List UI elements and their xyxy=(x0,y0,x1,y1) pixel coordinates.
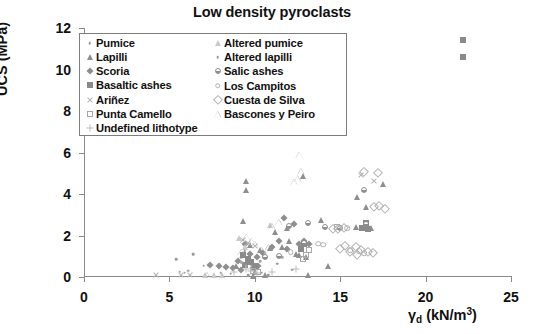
x-tick-label: 25 xyxy=(503,289,519,305)
chart-legend: PumiceLapilliScoriaBasaltic ashesAriñezP… xyxy=(79,33,347,136)
x-tick-label: 0 xyxy=(80,289,88,305)
y-tick-label: 0 xyxy=(63,269,71,285)
legend-item-label: Altered pumice xyxy=(224,37,303,49)
triangle-filled-marker-icon xyxy=(262,272,268,278)
x-tick-label: 5 xyxy=(165,289,173,305)
y-tick-label: 6 xyxy=(63,145,71,161)
legend-item-label: Bascones y Peiro xyxy=(224,108,315,120)
legend-item-cuesta-de-silva[interactable]: Cuesta de Silva xyxy=(211,93,345,107)
triangle-open-marker-icon xyxy=(203,271,211,278)
y-tick-label: 2 xyxy=(63,228,71,244)
diamond-filled-marker-icon xyxy=(86,68,93,75)
x-axis-unit-open: (kN/m xyxy=(422,307,466,323)
legend-item-basaltic-ashes[interactable]: Basaltic ashes xyxy=(83,78,211,92)
diamond-filled-marker-icon xyxy=(215,262,222,269)
y-tick: 6 xyxy=(79,153,85,154)
x-axis-label: γd (kN/m3) xyxy=(408,306,477,325)
triangle-open-marker-icon xyxy=(217,271,225,278)
legend-marker-triangle-filled-icon xyxy=(83,51,96,63)
triangle-filled-marker-icon xyxy=(286,238,292,244)
legend-item-label: Undefined lithotype xyxy=(96,122,198,134)
circle-half-marker-icon xyxy=(361,187,367,193)
legend-item-salic-ashes[interactable]: Salic ashes xyxy=(211,64,345,78)
legend-item-label: Cuesta de Silva xyxy=(224,94,304,106)
triangle-open-marker-icon xyxy=(214,111,222,118)
triangle-filled-marker-icon xyxy=(240,218,246,224)
legend-column-right: Altered pumiceAltered lapilliSalic ashes… xyxy=(211,36,345,135)
triangle-open-marker-icon xyxy=(290,178,298,185)
square-filled-marker-icon xyxy=(365,226,371,232)
circle-open-marker-icon xyxy=(215,83,221,89)
legend-column-left: PumiceLapilliScoriaBasaltic ashesAriñezP… xyxy=(83,36,211,135)
circle-half-marker-icon xyxy=(322,224,328,230)
y-tick: 4 xyxy=(79,194,85,195)
legend-item-label: Los Campitos xyxy=(224,80,296,92)
y-tick: 2 xyxy=(79,236,85,237)
legend-item-label: Basaltic ashes xyxy=(96,79,172,91)
triangle-filled-marker-icon xyxy=(363,204,369,210)
legend-marker-dot-icon xyxy=(83,37,96,49)
circle-half-marker-icon xyxy=(305,220,311,226)
x-marker-icon xyxy=(371,177,378,184)
square-filled-marker-icon xyxy=(87,82,93,88)
y-tick-label: 8 xyxy=(63,103,71,119)
legend-item-label: Salic ashes xyxy=(224,65,283,77)
square-open-marker-icon xyxy=(306,247,312,253)
y-tick-label: 12 xyxy=(55,20,71,36)
x-tick: 15 xyxy=(340,276,341,282)
circle-open-marker-icon xyxy=(320,242,326,248)
legend-item-altered-pumice[interactable]: Altered pumice xyxy=(211,36,345,50)
legend-item-lapilli[interactable]: Lapilli xyxy=(83,50,211,64)
legend-item-label: Pumice xyxy=(96,37,135,49)
legend-marker-square-filled-icon xyxy=(83,79,96,91)
dot-marker-icon xyxy=(259,260,262,263)
x-axis-unit-close: ) xyxy=(472,307,477,323)
x-tick: 5 xyxy=(169,276,170,282)
legend-item-pumice[interactable]: Pumice xyxy=(83,36,211,50)
legend-marker-circle-open-icon xyxy=(211,80,224,92)
triangle-open-marker-icon xyxy=(275,219,283,226)
square-filled-marker-icon xyxy=(460,54,466,60)
circle-open-marker-icon xyxy=(288,249,294,255)
dot-marker-icon xyxy=(88,42,91,45)
legend-marker-diamond-open-icon xyxy=(211,94,224,106)
dot-marker-icon xyxy=(240,261,243,264)
triangle-filled-marker-icon xyxy=(87,54,93,60)
legend-item-punta-camello[interactable]: Punta Camello xyxy=(83,107,211,121)
legend-item-label: Altered lapilli xyxy=(224,51,292,63)
diamond-open-marker-icon xyxy=(212,95,222,105)
circle-half-marker-icon xyxy=(301,240,307,246)
diamond-filled-marker-icon xyxy=(222,263,229,270)
legend-item-ari-ez[interactable]: Ariñez xyxy=(83,93,211,107)
legend-item-undefined-lithotype[interactable]: Undefined lithotype xyxy=(83,121,211,135)
legend-item-label: Lapilli xyxy=(96,51,127,63)
y-tick-label: 4 xyxy=(63,186,71,202)
square-open-marker-icon xyxy=(300,256,306,262)
dot-marker-icon xyxy=(178,271,181,274)
triangle-open-marker-icon xyxy=(295,151,303,158)
dot-marker-icon xyxy=(202,264,205,267)
square-filled-marker-icon xyxy=(298,246,304,252)
legend-item-label: Punta Camello xyxy=(96,108,172,120)
x-tick-label: 15 xyxy=(332,289,348,305)
legend-item-label: Scoria xyxy=(96,65,129,77)
legend-item-altered-lapilli[interactable]: Altered lapilli xyxy=(211,50,345,64)
x-tick-label: 20 xyxy=(418,289,434,305)
y-tick-label: 10 xyxy=(55,62,71,78)
x-tick: 0 xyxy=(84,276,85,282)
triangle-light-marker-icon xyxy=(215,40,221,46)
plus-marker-icon xyxy=(292,265,299,272)
legend-item-los-campitos[interactable]: Los Campitos xyxy=(211,79,345,93)
triangle-open-marker-icon xyxy=(297,168,305,175)
chart-title: Low density pyroclasts xyxy=(0,4,544,20)
triangle-filled-marker-icon xyxy=(354,194,360,200)
y-tick: 12 xyxy=(79,28,85,29)
legend-marker-dot-icon xyxy=(211,51,224,63)
plus-marker-icon xyxy=(86,124,93,131)
legend-item-scoria[interactable]: Scoria xyxy=(83,64,211,78)
triangle-filled-marker-icon xyxy=(318,217,324,223)
legend-item-bascones-y-peiro[interactable]: Bascones y Peiro xyxy=(211,107,345,121)
circle-half-marker-icon xyxy=(262,254,268,260)
dot-marker-icon xyxy=(276,262,279,265)
triangle-filled-marker-icon xyxy=(325,263,331,269)
